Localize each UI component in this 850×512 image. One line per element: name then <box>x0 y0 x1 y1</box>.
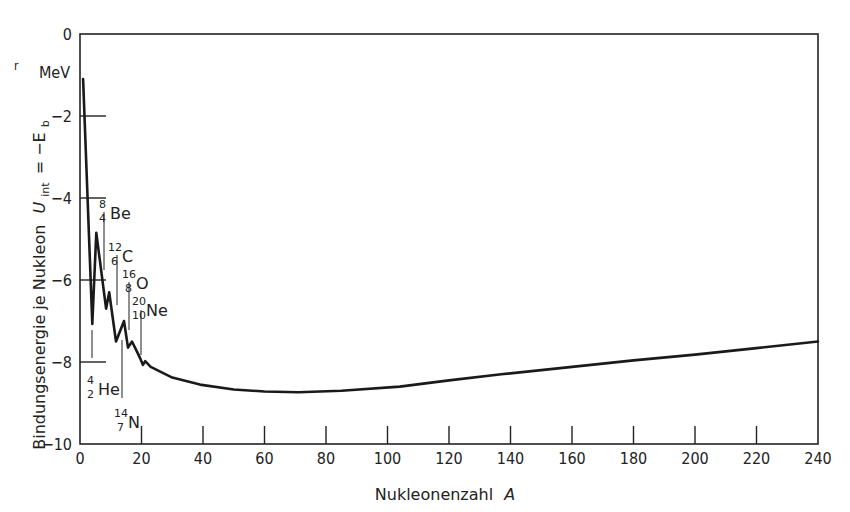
x-tick-label: 240 <box>804 449 831 468</box>
isotope-label-ne: 2010Ne <box>132 295 168 322</box>
isotope-label-n: 147N <box>114 407 140 434</box>
element-symbol: Be <box>110 204 131 223</box>
mass-number: 12 <box>108 241 122 254</box>
isotope-label-o: 168O <box>122 268 149 295</box>
mass-number: 16 <box>122 268 136 281</box>
y-axis-title-text: Bindungsenergie je Nukleon <box>30 225 49 450</box>
y-axis-rhs-sub: b <box>39 120 52 127</box>
x-tick-label: 40 <box>194 449 212 468</box>
x-tick-label: 120 <box>435 449 462 468</box>
y-axis-var: U <box>30 202 49 214</box>
y-tick-label: −2 <box>51 107 72 126</box>
x-tick-label: 20 <box>132 449 150 468</box>
mass-number: 14 <box>114 407 128 420</box>
atomic-number: 7 <box>117 421 124 434</box>
x-tick-label: 100 <box>374 449 401 468</box>
isotope-annotations: 42He84Be126C147N168O2010Ne <box>87 198 168 434</box>
y-tick-label: 0 <box>63 25 72 44</box>
x-tick-label: 200 <box>681 449 708 468</box>
element-symbol: N <box>128 413 140 432</box>
x-axis-ticks: 020406080100120140160180200220240 <box>75 426 831 468</box>
x-tick-label: 80 <box>317 449 335 468</box>
element-symbol: C <box>122 247 133 266</box>
y-axis-title: Bindungsenergie je Nukleon U int = −E b <box>30 120 53 450</box>
isotope-label-c: 126C <box>108 241 133 268</box>
y-axis-rhs: = −E <box>30 132 49 174</box>
isotope-label-be: 84Be <box>99 198 131 225</box>
y-unit-label: MeV <box>39 63 70 82</box>
mass-number: 8 <box>99 198 106 211</box>
atomic-number: 4 <box>99 212 106 225</box>
mass-number: 4 <box>87 374 94 387</box>
x-tick-label: 140 <box>497 449 524 468</box>
x-tick-label: 160 <box>558 449 585 468</box>
y-tick-label: −6 <box>51 271 72 290</box>
element-symbol: He <box>98 380 120 399</box>
atomic-number: 6 <box>111 255 118 268</box>
isotope-label-he: 42He <box>87 374 120 401</box>
mass-number: 20 <box>132 295 146 308</box>
x-axis-title: Nukleonenzahl A <box>375 485 515 504</box>
atomic-number: 10 <box>132 309 146 322</box>
y-axis-var-sub: int <box>39 182 52 197</box>
x-tick-label: 0 <box>75 449 84 468</box>
x-axis-title-text: Nukleonenzahl <box>375 485 493 504</box>
y-tick-label: −8 <box>51 353 72 372</box>
svg-text:Bindungsenergie je Nukleon: Bindungsenergie je Nukleon U int = −E b <box>30 120 53 450</box>
x-tick-label: 220 <box>743 449 770 468</box>
x-axis-variable: A <box>503 485 515 504</box>
x-tick-label: 60 <box>255 449 273 468</box>
y-tick-label: −4 <box>51 189 72 208</box>
atomic-number: 2 <box>87 388 94 401</box>
element-symbol: O <box>136 274 149 293</box>
binding-energy-chart: r 020406080100120140160180200220240 0−2−… <box>0 0 850 512</box>
clipped-text-fragment: r <box>14 59 19 73</box>
x-tick-label: 180 <box>620 449 647 468</box>
atomic-number: 8 <box>125 282 132 295</box>
binding-energy-curve <box>83 79 818 392</box>
svg-text:Nukleonenzahl A: Nukleonenzahl A <box>375 485 515 504</box>
element-symbol: Ne <box>146 301 168 320</box>
